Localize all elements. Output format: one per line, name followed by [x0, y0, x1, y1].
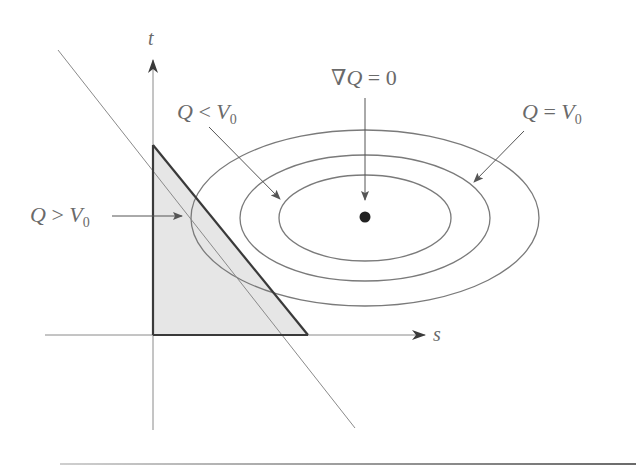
- label-rhs: V: [216, 99, 229, 124]
- diagram-canvas: t s ∇Q = 0 Q < V0 Q = V0 Q > V0: [0, 0, 636, 466]
- label-var: Q: [522, 99, 538, 124]
- bottom-rule: [60, 463, 636, 465]
- q-less-label: Q < V0: [177, 101, 237, 127]
- gradient-zero-label: ∇Q = 0: [331, 67, 397, 89]
- label-sub: 0: [83, 215, 90, 230]
- q-greater-label: Q > V0: [30, 204, 90, 230]
- label-rhs: V: [561, 99, 574, 124]
- q-equal-label: Q = V0: [522, 101, 582, 127]
- label-op: <: [193, 99, 216, 124]
- label-var: Q: [177, 99, 193, 124]
- label-rhs: V: [69, 202, 82, 227]
- t-axis-label: t: [148, 28, 154, 48]
- gradient-zero-point: [360, 212, 371, 223]
- label-rest: = 0: [362, 65, 396, 90]
- nabla-symbol: ∇: [331, 65, 346, 90]
- diagram-svg: [0, 0, 636, 466]
- s-axis-label: s: [433, 324, 441, 344]
- label-op: =: [538, 99, 561, 124]
- label-sub: 0: [575, 112, 582, 127]
- label-var: Q: [30, 202, 46, 227]
- label-sub: 0: [230, 112, 237, 127]
- q-less-arrow: [209, 127, 280, 199]
- label-op: >: [46, 202, 69, 227]
- label-var: Q: [346, 65, 362, 90]
